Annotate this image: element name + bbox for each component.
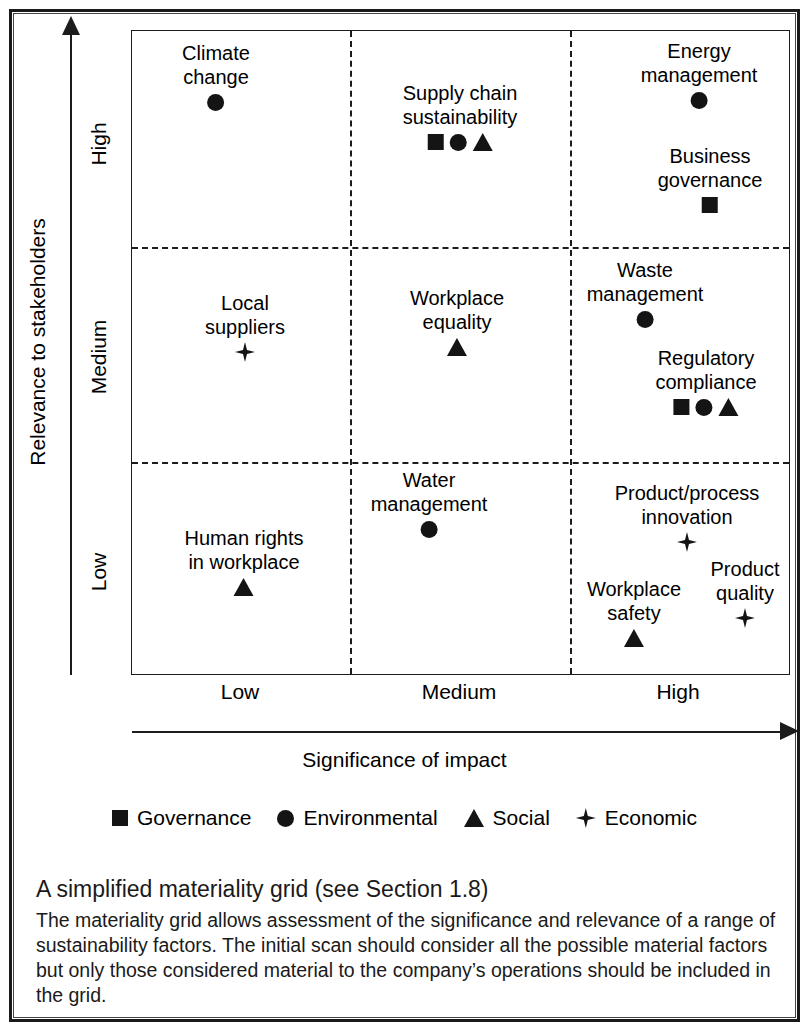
legend: Governance Environmental Social Economic [0,806,809,830]
item-supply-chain-sustainability[interactable]: Supply chain sustainability [403,81,518,153]
figure-page: Relevance to stakeholders High Medium Lo… [0,0,809,1031]
item-label-line2: change [182,65,250,89]
item-label-line1: Workplace [587,577,681,601]
item-markers [182,91,250,113]
item-label-line1: Product [711,557,780,581]
y-axis-arrowhead-icon [62,16,80,35]
y-tick-high: High [87,44,111,244]
item-water-management[interactable]: Water management [371,468,488,540]
item-product-quality[interactable]: Product quality [711,557,780,629]
social-marker-icon [473,133,493,151]
item-label-line1: Local [205,291,285,315]
legend-item-economic[interactable]: Economic [576,806,697,830]
legend-label-social: Social [493,806,550,830]
item-label-line2: management [587,282,704,306]
x-axis-arrowhead-icon [780,722,799,740]
social-marker-icon [464,809,484,827]
item-energy-management[interactable]: Energy management [641,39,758,111]
environmental-marker-icon [695,399,712,416]
item-label-line1: Climate [182,41,250,65]
environmental-marker-icon [691,92,708,109]
grid-vline-low-medium [350,31,352,674]
item-markers [711,607,780,629]
environmental-marker-icon [421,521,438,538]
item-markers [371,518,488,540]
item-local-suppliers[interactable]: Local suppliers [205,291,285,363]
y-tick-medium: Medium [87,257,111,457]
item-label-line2: equality [410,310,504,334]
item-markers [205,341,285,363]
y-axis-line [70,30,72,675]
materiality-grid-figure: Relevance to stakeholders High Medium Lo… [0,0,809,860]
governance-marker-icon [428,134,444,150]
item-markers [655,396,756,418]
caption-block: A simplified materiality grid (see Secti… [36,876,781,1008]
item-label-line2: suppliers [205,315,285,339]
item-markers [185,576,304,598]
y-tick-low: Low [87,472,111,672]
item-label-line1: Water [371,468,488,492]
item-label-line2: management [641,63,758,87]
item-human-rights-in-workplace[interactable]: Human rights in workplace [185,526,304,598]
item-product-process-innovation[interactable]: Product/process innovation [615,481,760,553]
environmental-marker-icon [207,94,224,111]
social-marker-icon [447,338,467,356]
item-climate-change[interactable]: Climate change [182,41,250,113]
x-tick-medium: Medium [349,680,569,704]
item-markers [587,308,704,330]
environmental-marker-icon [450,134,467,151]
environmental-marker-icon [277,810,294,827]
item-label-line1: Workplace [410,286,504,310]
item-label-line1: Product/process [615,481,760,505]
x-axis-line [132,731,782,733]
caption-title: A simplified materiality grid (see Secti… [36,876,781,903]
item-waste-management[interactable]: Waste management [587,258,704,330]
legend-item-environmental[interactable]: Environmental [277,806,437,830]
item-workplace-safety[interactable]: Workplace safety [587,577,681,649]
x-axis-title: Significance of impact [0,748,809,772]
item-label-line2: governance [658,168,763,192]
item-markers [658,194,763,216]
item-regulatory-compliance[interactable]: Regulatory compliance [655,346,756,418]
x-tick-low: Low [130,680,350,704]
economic-marker-icon [677,532,697,552]
item-label-line1: Regulatory [655,346,756,370]
item-label-line1: Human rights [185,526,304,550]
item-business-governance[interactable]: Business governance [658,144,763,216]
economic-marker-icon [235,342,255,362]
y-axis-title: Relevance to stakeholders [26,82,50,602]
item-markers [403,131,518,153]
legend-label-governance: Governance [137,806,251,830]
item-markers [587,627,681,649]
legend-item-governance[interactable]: Governance [112,806,251,830]
economic-marker-icon [576,808,596,828]
caption-body: The materiality grid allows assessment o… [36,908,781,1008]
governance-marker-icon [112,810,128,826]
economic-marker-icon [735,608,755,628]
item-label-line1: Supply chain [403,81,518,105]
item-label-line2: safety [587,601,681,625]
social-marker-icon [624,629,644,647]
grid-vline-medium-high [570,31,572,674]
governance-marker-icon [673,399,689,415]
item-label-line1: Energy [641,39,758,63]
item-label-line2: compliance [655,370,756,394]
plot-area: Climate change Supply chain sustainabili… [131,30,790,675]
x-tick-high: High [568,680,788,704]
grid-hline-medium-low [132,462,789,464]
item-label-line2: in workplace [185,550,304,574]
item-label-line2: innovation [615,505,760,529]
environmental-marker-icon [637,311,654,328]
item-label-line2: management [371,492,488,516]
item-markers [615,531,760,553]
legend-item-social[interactable]: Social [464,806,550,830]
item-workplace-equality[interactable]: Workplace equality [410,286,504,358]
social-marker-icon [718,398,738,416]
legend-label-environmental: Environmental [303,806,437,830]
item-markers [641,89,758,111]
item-label-line2: sustainability [403,105,518,129]
grid-hline-high-medium [132,247,789,249]
item-label-line1: Business [658,144,763,168]
legend-label-economic: Economic [605,806,697,830]
item-markers [410,336,504,358]
